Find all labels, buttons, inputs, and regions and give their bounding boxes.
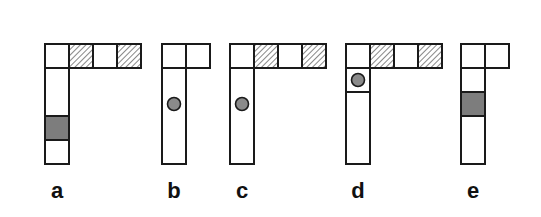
empty-cell: [346, 44, 370, 68]
panel-b: [162, 44, 210, 164]
empty-cell: [394, 44, 418, 68]
empty-cell: [45, 140, 69, 164]
figure-panels: a b c d e: [0, 0, 541, 217]
empty-cell: [278, 44, 302, 68]
gray-dot-marker: [168, 98, 181, 111]
gray-cell: [45, 116, 69, 140]
gray-cell: [461, 92, 485, 116]
gray-dot-marker: [352, 74, 365, 87]
panel-label-a: a: [37, 178, 77, 204]
empty-cell: [186, 44, 210, 68]
gray-dot-marker: [236, 98, 249, 111]
hatched-cell: [418, 44, 442, 68]
empty-cell: [230, 44, 254, 68]
empty-cell: [93, 44, 117, 68]
empty-cell: [485, 44, 509, 68]
empty-cell: [346, 92, 370, 164]
panel-a: [45, 44, 141, 164]
column-cell: [162, 68, 186, 164]
empty-cell: [45, 68, 69, 116]
empty-cell: [162, 44, 186, 68]
hatched-cell: [302, 44, 326, 68]
panel-c: [230, 44, 326, 164]
panel-d: [346, 44, 442, 164]
column-cell: [230, 68, 254, 164]
hatched-cell: [117, 44, 141, 68]
panel-label-e: e: [453, 178, 493, 204]
panel-label-c: c: [222, 178, 262, 204]
empty-cell: [461, 116, 485, 164]
empty-cell: [461, 68, 485, 92]
empty-cell: [45, 44, 69, 68]
panel-e: [461, 44, 509, 164]
hatched-cell: [69, 44, 93, 68]
panel-label-b: b: [154, 178, 194, 204]
hatched-cell: [254, 44, 278, 68]
empty-cell: [461, 44, 485, 68]
panel-label-d: d: [338, 178, 378, 204]
hatched-cell: [370, 44, 394, 68]
